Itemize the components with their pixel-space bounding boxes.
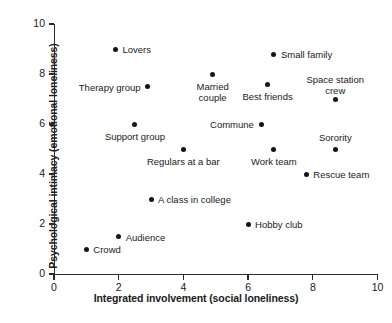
y-tick-label: 4 [19,167,45,179]
y-axis-label: Psychological intimacy (emotional loneli… [47,31,59,281]
data-point-label: Small family [281,50,332,61]
x-tick-mark [118,275,119,280]
y-tick-label: 2 [19,217,45,229]
x-tick-label: 4 [170,281,196,293]
y-tick-label: 10 [19,17,45,29]
data-point-label: Commune [210,120,254,131]
data-point [271,52,276,57]
scatter-plot-figure: Psychological intimacy (emotional loneli… [0,0,392,323]
data-point [84,247,89,252]
y-tick-mark [49,23,54,24]
data-point [304,172,309,177]
y-tick-mark [49,173,54,174]
data-point [271,147,276,152]
x-axis-label: Integrated involvement (social lonelines… [0,292,392,304]
data-point [333,147,338,152]
data-point [333,97,338,102]
data-point-label: Regulars at a bar [147,157,220,168]
data-point [116,234,121,239]
data-point-label: Support group [105,132,165,143]
data-point [265,82,270,87]
data-point-label: Rescue team [313,170,369,181]
x-tick-mark [312,275,313,280]
y-tick-mark [49,223,54,224]
data-point [210,72,215,77]
data-point-label: Best friends [243,92,293,103]
data-point-label: Lovers [122,45,151,56]
data-point-label: Work team [251,157,297,168]
data-point [259,122,264,127]
y-tick-label: 6 [19,117,45,129]
data-point-label: Married couple [197,82,229,103]
y-axis-line [54,24,55,275]
x-tick-label: 6 [235,281,261,293]
x-axis-line [54,274,378,275]
y-tick-mark [49,123,54,124]
data-point-label: Sorority [319,133,352,144]
data-point-label: Space station crew [306,75,364,96]
data-point-label: Audience [126,233,166,244]
x-tick-mark [53,275,54,280]
data-point [145,84,150,89]
data-point [246,222,251,227]
data-point [113,47,118,52]
data-point-label: Crowd [93,245,120,256]
y-tick-label: 0 [19,267,45,279]
y-tick-label: 8 [19,67,45,79]
x-tick-label: 2 [106,281,132,293]
data-point [149,197,154,202]
data-point-label: A class in college [158,195,231,206]
x-tick-label: 10 [365,281,391,293]
x-tick-mark [183,275,184,280]
data-point [132,122,137,127]
x-tick-mark [377,275,378,280]
data-point-label: Therapy group [79,83,141,94]
x-tick-label: 0 [41,281,67,293]
x-tick-label: 8 [300,281,326,293]
y-tick-mark [49,73,54,74]
x-tick-mark [247,275,248,280]
data-point [181,147,186,152]
data-point-label: Hobby club [255,220,303,231]
